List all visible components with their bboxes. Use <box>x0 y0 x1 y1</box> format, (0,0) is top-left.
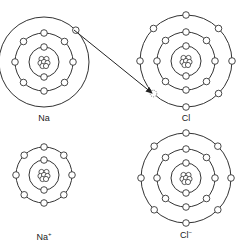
electron <box>20 38 27 45</box>
sodium-ion <box>13 144 76 207</box>
electron <box>228 175 235 182</box>
electron <box>20 79 27 86</box>
electron <box>162 78 169 85</box>
electron <box>215 90 222 97</box>
electron <box>73 27 80 34</box>
electron <box>151 207 158 214</box>
electron <box>137 58 144 65</box>
electron <box>212 175 219 182</box>
electron <box>154 175 161 182</box>
sodium-atom <box>0 17 89 107</box>
electron <box>183 190 190 197</box>
electron <box>229 58 236 65</box>
electron-transfer-diagram: Na Cl Na+ Cl− <box>0 0 242 246</box>
electron <box>41 74 48 81</box>
electron <box>41 187 48 194</box>
electron <box>215 25 222 32</box>
electron <box>203 78 210 85</box>
electron <box>13 172 20 179</box>
electron <box>162 154 169 161</box>
electron <box>154 58 161 65</box>
electron <box>41 44 48 51</box>
electron <box>162 195 169 202</box>
electron <box>183 12 190 19</box>
nucleus <box>38 169 50 181</box>
label-na: Na <box>38 113 50 123</box>
electron <box>203 195 210 202</box>
electron <box>183 104 190 111</box>
electron <box>215 207 222 214</box>
electron <box>69 172 76 179</box>
electron <box>212 58 219 65</box>
nucleus <box>180 55 192 67</box>
electron <box>215 143 222 150</box>
electron <box>183 160 190 167</box>
electron <box>183 29 190 36</box>
electron <box>61 38 68 45</box>
electron <box>61 79 68 86</box>
electron <box>41 88 48 95</box>
chloride-ion <box>138 130 235 227</box>
electron <box>183 87 190 94</box>
nucleon <box>185 62 190 67</box>
vacant-electron-position <box>150 90 157 97</box>
electron <box>70 59 77 66</box>
electron <box>138 175 145 182</box>
electron <box>183 204 190 211</box>
electron <box>183 220 190 227</box>
electron <box>183 130 190 137</box>
nucleus <box>38 56 50 68</box>
nucleon <box>43 176 48 181</box>
label-cl-ion: Cl− <box>180 229 193 240</box>
electron <box>41 200 48 207</box>
label-na-ion: Na+ <box>36 231 52 242</box>
nucleus <box>180 172 192 184</box>
nucleon <box>43 63 48 68</box>
nucleon <box>185 179 190 184</box>
electron <box>183 73 190 80</box>
electron <box>183 43 190 50</box>
electron <box>203 37 210 44</box>
electron <box>21 152 28 159</box>
electron <box>60 191 67 198</box>
electron <box>21 191 28 198</box>
label-cl: Cl <box>182 113 191 123</box>
electron <box>162 37 169 44</box>
electron <box>60 152 67 159</box>
electron <box>151 143 158 150</box>
electron <box>12 59 19 66</box>
electron <box>183 146 190 153</box>
electron <box>41 144 48 151</box>
electron <box>203 154 210 161</box>
chlorine-atom <box>137 12 236 111</box>
electron <box>150 25 157 32</box>
electron <box>41 157 48 164</box>
electron <box>41 30 48 37</box>
